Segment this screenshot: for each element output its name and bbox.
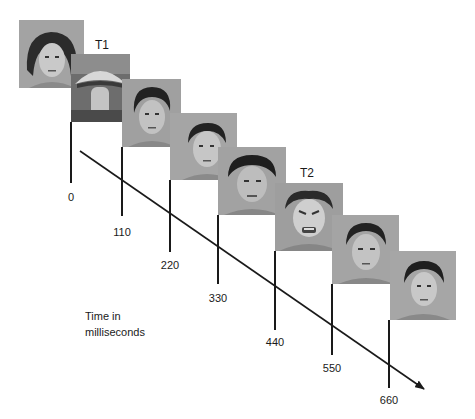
face-icon (390, 251, 456, 320)
time-axis-label-line1: Time in (85, 308, 145, 324)
tick-label-440: 440 (266, 336, 284, 348)
tick-line-550 (331, 284, 333, 355)
tick-line-220 (169, 180, 171, 252)
tick-line-660 (388, 320, 390, 388)
tick-label-0: 0 (68, 191, 74, 203)
frame-face-6 (390, 251, 456, 320)
time-axis-label-line2: milliseconds (85, 324, 145, 340)
frame-face-5 (332, 215, 399, 284)
tick-line-440 (274, 251, 276, 330)
tick-label-220: 220 (161, 259, 179, 271)
tick-label-550: 550 (323, 362, 341, 374)
rsvp-diagram: T1 T2 0 110 220 330 440 550 660 Time in … (0, 0, 475, 419)
target-label-t1: T1 (95, 38, 109, 52)
tick-label-110: 110 (113, 226, 131, 238)
target-label-t2: T2 (300, 166, 314, 180)
tick-line-0 (70, 122, 72, 183)
face-icon (332, 215, 399, 284)
time-axis-label: Time in milliseconds (85, 308, 145, 340)
tick-line-110 (121, 147, 123, 216)
tick-label-330: 330 (209, 292, 227, 304)
tick-label-660: 660 (380, 394, 398, 406)
tick-line-330 (217, 215, 219, 284)
